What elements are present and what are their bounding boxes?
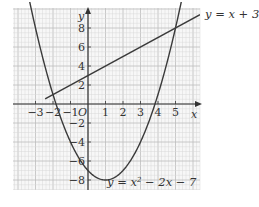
y-axis-label: y — [77, 10, 85, 23]
parabola-eq-suffix: − 2x − 7 — [141, 175, 197, 189]
y-tick-label: −6 — [69, 155, 85, 168]
x-tick-label: 2 — [120, 106, 127, 119]
y-tick-label: 8 — [78, 22, 85, 35]
y-tick-label: 6 — [78, 41, 85, 54]
x-tick-label: 1 — [102, 106, 109, 119]
parabola-equation-label: y = x2 − 2x − 7 — [106, 175, 197, 189]
y-tick-label: −8 — [69, 174, 85, 187]
x-tick-label: 3 — [137, 106, 144, 119]
graph: −3−2−1123458642−2−4−6−8 y x O y = x + 3 … — [0, 0, 259, 207]
origin-label: O — [78, 106, 87, 119]
x-axis-label: x — [191, 108, 198, 121]
x-tick-label: −3 — [27, 106, 43, 119]
parabola-eq-prefix: y = x — [106, 175, 137, 189]
x-tick-label: 5 — [172, 106, 179, 119]
line-equation-label: y = x + 3 — [204, 7, 259, 21]
y-tick-label: 4 — [78, 60, 85, 73]
x-tick-label: 4 — [155, 106, 162, 119]
